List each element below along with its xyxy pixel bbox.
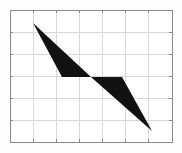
- figure-container: [0, 0, 182, 153]
- plot-svg: [0, 0, 182, 153]
